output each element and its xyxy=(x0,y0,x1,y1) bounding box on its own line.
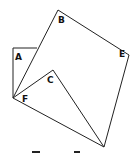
label-E: E xyxy=(119,49,125,59)
cropped-mark-right xyxy=(74,151,80,153)
label-C: C xyxy=(47,75,54,85)
edge-C-G xyxy=(53,70,104,147)
edge-G-F xyxy=(13,98,104,147)
label-A: A xyxy=(15,52,22,62)
label-F: F xyxy=(22,94,28,104)
geometry-diagram: A B C E F xyxy=(0,0,133,154)
label-B: B xyxy=(58,15,65,25)
edge-E-G xyxy=(104,55,129,147)
cropped-mark-left xyxy=(32,151,40,153)
